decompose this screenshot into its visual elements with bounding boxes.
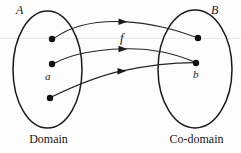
domain-element-label-a: a bbox=[45, 71, 51, 82]
domain-set-label: A bbox=[16, 4, 23, 16]
diagram-canvas bbox=[0, 0, 241, 153]
domain-point-bottom bbox=[47, 95, 53, 101]
codomain-point-top bbox=[195, 35, 201, 41]
domain-point-middle bbox=[49, 61, 55, 67]
codomain-caption: Co-domain bbox=[152, 133, 241, 145]
arrowhead-top bbox=[118, 19, 127, 26]
codomain-point-bottom bbox=[193, 60, 199, 66]
arrow-bottom bbox=[52, 63, 194, 97]
function-label-f: f bbox=[120, 31, 124, 44]
codomain-set-label: B bbox=[211, 4, 218, 16]
domain-point-top bbox=[49, 36, 55, 42]
codomain-element-label-b: b bbox=[193, 69, 199, 80]
function-mapping-diagram: A B a b f Domain Co-domain bbox=[0, 0, 241, 153]
domain-caption: Domain bbox=[0, 133, 97, 145]
arrowhead-bottom bbox=[117, 68, 126, 75]
arrow-middle bbox=[54, 46, 195, 64]
arrowhead-middle bbox=[118, 46, 127, 53]
